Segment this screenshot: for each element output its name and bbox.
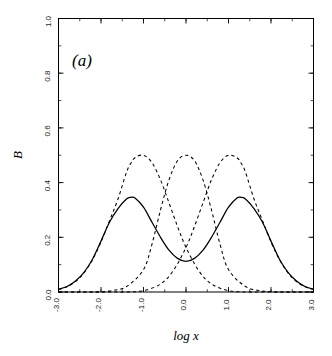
y-tick-label: 1.0 [44,15,53,27]
x-tick-label: 0.0 [179,299,188,311]
y-tick-label: 0.6 [44,125,53,137]
y-axis-title: B [10,151,25,159]
y-tick-label: 0.2 [44,234,53,246]
x-tick-label: 2.0 [264,299,273,311]
x-tick-label: 1.0 [222,299,231,311]
x-tick-label: -1.0 [137,298,146,312]
x-tick-label: 3.0 [307,299,316,311]
panel-label: (a) [72,51,92,70]
chart-background [0,0,332,356]
y-tick-label: 0.0 [44,289,53,301]
y-tick-label: 0.8 [44,70,53,82]
y-tick-label: 0.4 [44,179,53,191]
chart-canvas: -3.0-2.0-1.00.01.02.03.0 0.00.20.40.60.8… [0,0,332,356]
x-axis-title: log x [173,328,199,343]
x-tick-label: -2.0 [94,298,103,312]
x-tick-label: -3.0 [52,298,61,312]
figure-panel-a: -3.0-2.0-1.00.01.02.03.0 0.00.20.40.60.8… [0,0,332,356]
